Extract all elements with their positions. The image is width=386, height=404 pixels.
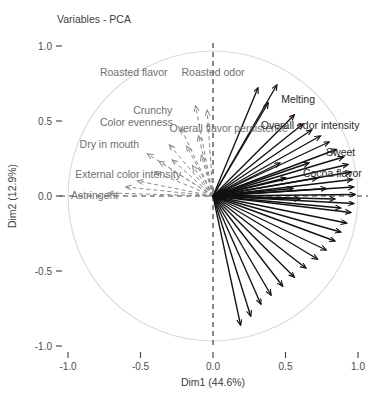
variable-label: External color intensity (75, 168, 181, 180)
variable-label: Astringent (71, 189, 118, 201)
y-axis-title: Dim2 (12.9%) (6, 164, 18, 228)
variable-label: Crunchy (133, 104, 173, 116)
y-tick-label: 0.5 (38, 116, 52, 127)
variable-label: Roasted odor (181, 66, 245, 78)
variable-label: Dry in mouth (80, 138, 140, 150)
x-tick-label: 0.0 (206, 361, 220, 372)
variable-label: Color evenness (100, 116, 173, 128)
variable-label: Cocoa flavor (303, 167, 362, 179)
y-tick-label: 0.0 (38, 191, 52, 202)
variable-label: Sweet (326, 146, 355, 158)
page-title: Variables - PCA (57, 13, 131, 25)
x-axis-title: Dim1 (44.6%) (181, 376, 245, 388)
x-tick-label: 0.5 (279, 361, 293, 372)
variable-label: Roasted flavor (100, 66, 168, 78)
y-tick-label: -0.5 (35, 266, 53, 277)
x-tick-label: -1.0 (59, 361, 77, 372)
pca-variables-plot: Roasted flavorRoasted odorCrunchyColor e… (0, 0, 386, 404)
y-tick-label: 1.0 (38, 41, 52, 52)
x-tick-label: -0.5 (132, 361, 150, 372)
y-tick-label: -1.0 (35, 341, 53, 352)
variable-label: Overall odor intensity (261, 119, 360, 131)
pca-chart-canvas: Roasted flavorRoasted odorCrunchyColor e… (0, 0, 386, 404)
x-tick-label: 1.0 (351, 361, 365, 372)
variable-label: Melting (281, 93, 315, 105)
